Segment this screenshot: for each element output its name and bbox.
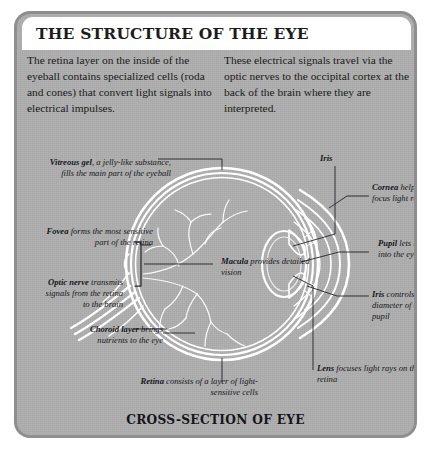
label-term-vitreous: Vitreous gel [50, 157, 92, 167]
label-macula: Macula provides detailed vision [221, 256, 313, 278]
label-term-iris-ctrl: Iris [372, 289, 384, 299]
intro-paragraph-left: The retina layer on the inside of the ey… [27, 52, 213, 116]
label-term-lens: Lens [317, 363, 334, 373]
intro-paragraphs: The retina layer on the inside of the ey… [27, 52, 410, 116]
label-pupil: Pupil lets light into the eye [378, 238, 417, 260]
diagram-caption: CROSS-SECTION OF EYE [17, 413, 414, 427]
label-term-fovea: Fovea [47, 226, 69, 236]
label-retina: Retina consists of a layer of light-sens… [113, 376, 258, 398]
label-term-optic: Optic nerve [48, 277, 89, 287]
label-vitreous-gel: Vitreous gel, a jelly-like substance, fi… [43, 157, 171, 179]
label-iris-top: Iris [320, 153, 370, 164]
intro-paragraph-right: These electrical signals travel via the … [224, 52, 410, 116]
page-title: THE STRUCTURE OF THE EYE [36, 24, 309, 43]
title-bar: THE STRUCTURE OF THE EYE [22, 17, 411, 50]
label-iris-control: Iris controls the diameter of the pupil [372, 289, 417, 323]
label-fovea: Fovea forms the most sensitive part of t… [43, 226, 153, 248]
eye-infographic-panel: THE STRUCTURE OF THE EYE The retina laye… [14, 11, 417, 438]
label-term-retina: Retina [141, 376, 164, 386]
label-term-pupil: Pupil [378, 238, 397, 248]
label-term-choroid: Choroid layer [90, 324, 139, 334]
label-optic-nerve: Optic nerve transmits signals from the r… [43, 277, 123, 311]
label-term-iris-top: Iris [320, 153, 332, 163]
label-choroid-layer: Choroid layer brings nutrients to the ey… [77, 324, 163, 346]
infographic-page: THE STRUCTURE OF THE EYE The retina laye… [0, 0, 431, 452]
label-term-macula: Macula [221, 256, 248, 266]
label-lens: Lens focuses light rays on the retina [317, 363, 417, 385]
label-text-retina: consists of a layer of light-sensitive c… [164, 376, 258, 397]
label-text-fovea: forms the most sensitive part of the ret… [69, 226, 154, 247]
label-cornea: Cornea helps to focus light rays [372, 182, 417, 204]
label-term-cornea: Cornea [372, 182, 398, 192]
